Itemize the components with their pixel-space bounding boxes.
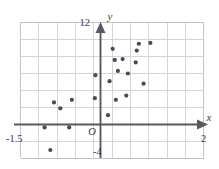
scatter-plot-figure: x y 12 -4 -1.5 2 O	[0, 0, 219, 169]
scatter-point	[93, 73, 97, 77]
scatter-point	[111, 47, 115, 51]
scatter-point	[137, 42, 141, 46]
scatter-point	[116, 69, 120, 73]
scatter-point	[114, 98, 118, 102]
y-max-tick-label: 12	[80, 17, 91, 28]
scatter-point	[52, 100, 56, 104]
scatter-point	[58, 106, 62, 110]
scatter-point	[106, 113, 110, 117]
scatter-point	[148, 41, 152, 45]
y-axis	[96, 22, 106, 158]
scatter-point	[141, 82, 145, 86]
scatter-plot-canvas: x y 12 -4 -1.5 2 O	[0, 0, 219, 169]
x-min-tick-label: -1.5	[6, 133, 23, 144]
scatter-point	[113, 58, 117, 62]
scatter-point	[93, 96, 97, 100]
scatter-point	[135, 48, 139, 52]
scatter-point	[134, 60, 138, 64]
scatter-point	[67, 125, 71, 129]
scatter-point	[126, 71, 130, 75]
scatter-point	[121, 57, 125, 61]
scatter-points-group	[42, 41, 152, 152]
scatter-point	[124, 94, 128, 98]
x-axis-label: x	[206, 111, 212, 123]
grid-vertical-lines	[21, 22, 204, 158]
scatter-point	[70, 98, 74, 102]
scatter-point	[48, 148, 52, 152]
y-axis-label: y	[107, 10, 113, 22]
scatter-point	[42, 125, 46, 129]
origin-label: O	[88, 126, 96, 137]
scatter-point	[107, 79, 111, 83]
x-max-tick-label: 2	[201, 133, 206, 144]
y-min-tick-label: -4	[93, 146, 102, 157]
